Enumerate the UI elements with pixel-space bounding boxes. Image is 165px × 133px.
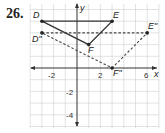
label-f: F (88, 45, 94, 55)
tick-x-neg2: -2 (48, 71, 56, 80)
axes (31, 4, 157, 126)
label-d: D (33, 10, 40, 20)
tick-x-6: 6 (144, 71, 149, 80)
tick-x-2: 2 (98, 71, 103, 80)
tick-y-neg2: -2 (66, 88, 74, 97)
point-d (40, 19, 44, 23)
label-e2: E" (148, 21, 158, 31)
y-axis-arrow-up (75, 3, 79, 8)
label-e: E (113, 10, 120, 20)
y-axis-label: y (79, 3, 85, 13)
point-e2 (145, 31, 149, 35)
x-axis-label: x (153, 69, 159, 79)
x-axis-arrow-left (30, 66, 35, 70)
tick-y-neg4: -4 (66, 111, 74, 120)
label-f2: F" (113, 68, 122, 78)
label-d2: D" (32, 34, 42, 44)
grid (30, 4, 159, 128)
coordinate-plane: D E F D" E" F" y x -2 2 6 -2 -4 (0, 0, 165, 133)
